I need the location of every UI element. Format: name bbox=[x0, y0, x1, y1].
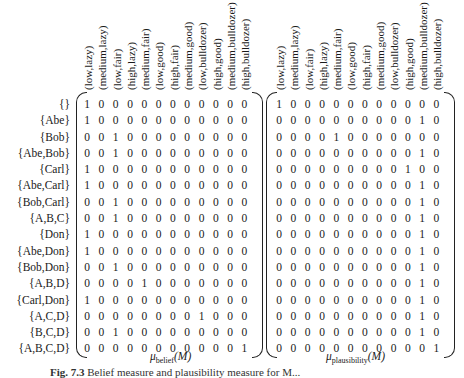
matrix-cell: 0 bbox=[94, 243, 108, 259]
matrix-cell: 0 bbox=[194, 112, 208, 128]
matrix-cell: 0 bbox=[237, 145, 251, 161]
matrix-cell: 0 bbox=[180, 324, 194, 340]
matrix-row: 100000000000 bbox=[272, 96, 444, 112]
column-header: (low,bulldozer) bbox=[386, 0, 400, 92]
matrix-cell: 0 bbox=[223, 177, 237, 193]
matrix-row: 100000000000 bbox=[80, 177, 252, 193]
matrix-cell: 0 bbox=[272, 129, 286, 145]
matrix-cell: 0 bbox=[272, 275, 286, 291]
matrix-cell: 0 bbox=[151, 292, 165, 308]
matrix-cell: 0 bbox=[286, 259, 300, 275]
matrix-row: 000000000100 bbox=[272, 161, 444, 177]
matrix-row: 000000000010 bbox=[272, 112, 444, 128]
matrix-cell: 0 bbox=[429, 96, 443, 112]
matrix-cell: 1 bbox=[415, 292, 429, 308]
matrix-cell: 0 bbox=[286, 96, 300, 112]
matrix-cell: 0 bbox=[372, 308, 386, 324]
matrix-cell: 0 bbox=[315, 275, 329, 291]
matrix-cell: 0 bbox=[329, 292, 343, 308]
matrix-cell: 1 bbox=[80, 96, 94, 112]
matrix-cell: 0 bbox=[343, 259, 357, 275]
matrix-cell: 0 bbox=[194, 324, 208, 340]
matrix-row: 100000000000 bbox=[80, 161, 252, 177]
matrix-cell: 0 bbox=[180, 112, 194, 128]
matrix-cell: 0 bbox=[166, 177, 180, 193]
plausibility-label: μplausibility(M) bbox=[326, 350, 385, 365]
matrix-cell: 1 bbox=[237, 340, 251, 356]
matrix-cell: 0 bbox=[429, 112, 443, 128]
matrix-row: 000010000000 bbox=[80, 275, 252, 291]
belief-right-paren bbox=[252, 92, 263, 358]
row-label: {Carl,Don} bbox=[0, 292, 70, 308]
matrix-cell: 1 bbox=[194, 308, 208, 324]
matrix-cell: 0 bbox=[137, 145, 151, 161]
matrix-cell: 0 bbox=[180, 308, 194, 324]
matrix-cell: 0 bbox=[223, 340, 237, 356]
matrix-row: 000000000010 bbox=[272, 177, 444, 193]
matrix-cell: 0 bbox=[123, 145, 137, 161]
matrix-row: 001000000000 bbox=[80, 259, 252, 275]
matrix-cell: 0 bbox=[194, 259, 208, 275]
matrix-cell: 1 bbox=[415, 112, 429, 128]
matrix-cell: 0 bbox=[372, 96, 386, 112]
matrix-cell: 1 bbox=[80, 112, 94, 128]
column-header: (medium,fair) bbox=[329, 0, 343, 92]
matrix-cell: 1 bbox=[80, 292, 94, 308]
matrix-cell: 0 bbox=[194, 129, 208, 145]
matrix-cell: 1 bbox=[415, 177, 429, 193]
column-header: (medium,fair) bbox=[137, 0, 151, 92]
matrix-cell: 0 bbox=[286, 177, 300, 193]
column-header: (medium,lazy) bbox=[286, 0, 300, 92]
matrix-cell: 0 bbox=[180, 243, 194, 259]
matrix-row: 100000000000 bbox=[80, 226, 252, 242]
matrix-cell: 0 bbox=[223, 194, 237, 210]
matrix-cell: 0 bbox=[372, 129, 386, 145]
matrix-cell: 0 bbox=[223, 243, 237, 259]
matrix-cell: 0 bbox=[151, 308, 165, 324]
matrix-cell: 0 bbox=[401, 129, 415, 145]
row-label: {} bbox=[0, 96, 70, 112]
matrix-cell: 0 bbox=[343, 210, 357, 226]
matrix-cell: 1 bbox=[329, 129, 343, 145]
matrix-cell: 0 bbox=[151, 259, 165, 275]
matrix-cell: 0 bbox=[237, 259, 251, 275]
matrix-cell: 0 bbox=[401, 275, 415, 291]
row-label: {A,B,D} bbox=[0, 275, 70, 291]
matrix-cell: 0 bbox=[137, 243, 151, 259]
matrix-cell: 0 bbox=[237, 96, 251, 112]
matrix-cell: 0 bbox=[301, 96, 315, 112]
matrix-cell: 0 bbox=[386, 308, 400, 324]
matrix-cell: 0 bbox=[237, 243, 251, 259]
column-header: (low,good) bbox=[343, 0, 357, 92]
matrix-cell: 0 bbox=[386, 324, 400, 340]
matrix-cell: 1 bbox=[415, 259, 429, 275]
matrix-cell: 0 bbox=[429, 194, 443, 210]
matrix-cell: 0 bbox=[301, 129, 315, 145]
matrix-cell: 0 bbox=[343, 324, 357, 340]
matrix-cell: 0 bbox=[166, 275, 180, 291]
matrix-cell: 0 bbox=[286, 324, 300, 340]
matrix-cell: 0 bbox=[386, 112, 400, 128]
matrix-cell: 0 bbox=[329, 194, 343, 210]
matrix-cell: 0 bbox=[223, 259, 237, 275]
belief-matrix: 1000000000001000000000000010000000000010… bbox=[80, 96, 252, 357]
matrix-cell: 0 bbox=[137, 177, 151, 193]
matrix-cell: 0 bbox=[315, 129, 329, 145]
column-header: (low,bulldozer) bbox=[194, 0, 208, 92]
matrix-cell: 0 bbox=[166, 259, 180, 275]
matrix-cell: 0 bbox=[166, 96, 180, 112]
matrix-cell: 0 bbox=[180, 292, 194, 308]
matrix-cell: 0 bbox=[109, 243, 123, 259]
matrix-cell: 0 bbox=[358, 129, 372, 145]
matrix-cell: 0 bbox=[109, 308, 123, 324]
matrix-cell: 0 bbox=[415, 340, 429, 356]
matrix-cell: 0 bbox=[386, 145, 400, 161]
matrix-row: 000000000010 bbox=[272, 210, 444, 226]
matrix-cell: 0 bbox=[386, 96, 400, 112]
matrix-cell: 1 bbox=[415, 226, 429, 242]
matrix-cell: 0 bbox=[358, 194, 372, 210]
matrix-row: 000000001000 bbox=[80, 308, 252, 324]
matrix-cell: 0 bbox=[80, 259, 94, 275]
matrix-cell: 1 bbox=[109, 129, 123, 145]
matrix-cell: 0 bbox=[166, 308, 180, 324]
